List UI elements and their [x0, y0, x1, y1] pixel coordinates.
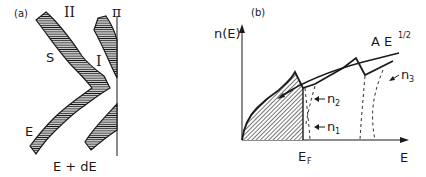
band-lower-right-shaded — [85, 104, 117, 150]
label-n1-group: n 1 — [314, 119, 340, 136]
svg-text:n: n — [327, 119, 335, 134]
label-surface-S: S — [46, 50, 54, 65]
occupied-states-shaded — [242, 72, 303, 140]
svg-text:F: F — [307, 157, 312, 166]
panel-b-tag: (b) — [251, 7, 265, 18]
label-energy-E: E — [25, 124, 33, 139]
svg-text:1: 1 — [335, 127, 340, 136]
panel-b-density-of-states-plot: n 2 n 1 n 3 (b) n(E) E E F A E 1/2 — [213, 0, 426, 177]
panel-b-canvas: n 2 n 1 n 3 (b) n(E) E E F A E 1/2 — [213, 0, 426, 177]
svg-text:E: E — [298, 149, 306, 164]
x-axis-arrow-icon — [400, 137, 409, 143]
panel-a-tag: (a) — [14, 8, 28, 19]
svg-text:3: 3 — [409, 75, 414, 84]
band-n3-right-dashed — [373, 70, 383, 140]
fermi-energy-label: E F — [298, 149, 312, 166]
band-n2-dashed — [306, 86, 315, 124]
panel-a-fermi-surface-diagram: (a) II π S I E E + dE — [0, 0, 213, 177]
label-region-II: II — [64, 4, 75, 20]
band-n1-dashed — [305, 88, 310, 140]
arrow-left-icon — [389, 76, 395, 81]
svg-text:A E: A E — [371, 34, 392, 49]
label-plane-pi: π — [112, 4, 121, 20]
svg-text:n: n — [401, 67, 409, 82]
svg-text:n: n — [327, 91, 335, 106]
label-energy-E-plus-dE: E + dE — [53, 159, 97, 174]
svg-text:1/2: 1/2 — [398, 31, 411, 40]
y-axis-label: n(E) — [214, 26, 241, 41]
label-region-I: I — [96, 53, 102, 69]
x-axis-label: E — [400, 150, 408, 165]
arrow-left-icon — [314, 96, 319, 102]
label-n3-group: n 3 — [389, 67, 414, 84]
sqrt-curve-label: A E 1/2 — [371, 31, 411, 49]
label-n2-group: n 2 — [314, 91, 340, 108]
svg-text:2: 2 — [335, 99, 340, 108]
arrow-left-icon — [314, 124, 319, 130]
band-n3-left-dashed — [360, 76, 365, 140]
panel-a-canvas: (a) II π S I E E + dE — [0, 0, 213, 177]
